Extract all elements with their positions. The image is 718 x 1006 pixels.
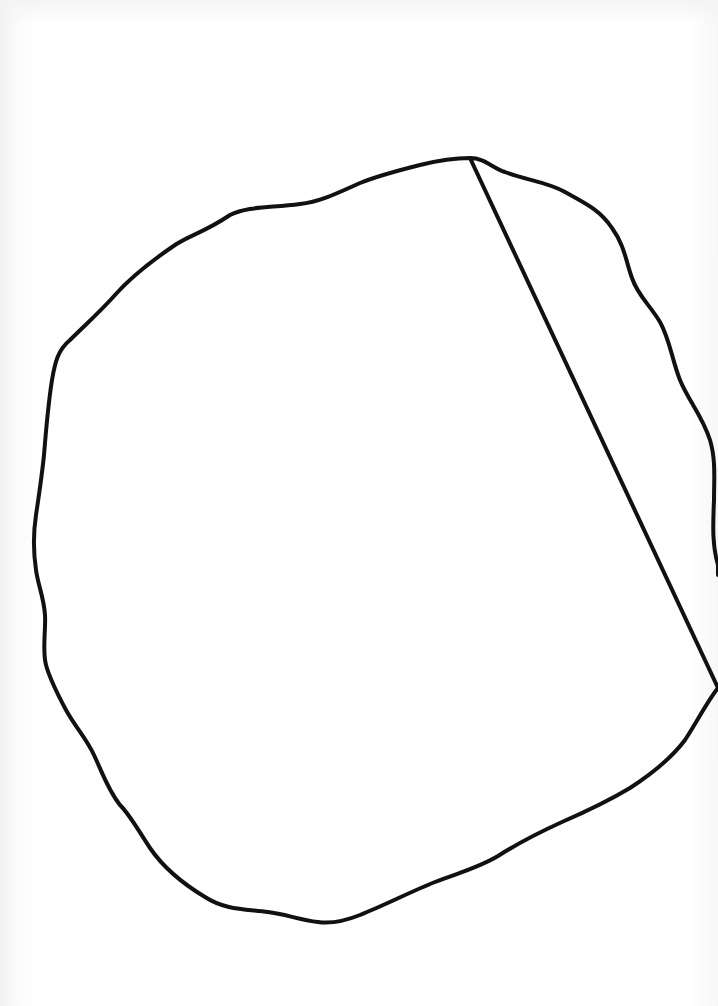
scanned-page [0,0,718,1006]
loop-outline [34,158,718,923]
hand-drawn-loop [0,0,718,1006]
